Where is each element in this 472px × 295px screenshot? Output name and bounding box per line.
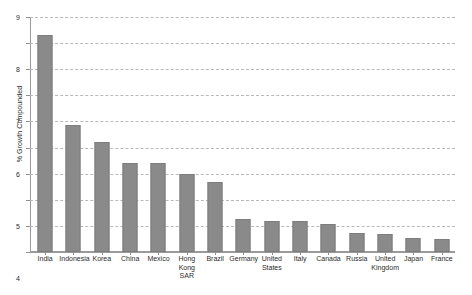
x-axis-tick-label: China: [116, 255, 144, 264]
y-axis-tick-label: 7: [16, 118, 20, 125]
bar-slot: [428, 17, 456, 252]
bar[interactable]: [406, 238, 421, 252]
bar-series: [31, 17, 455, 252]
bar[interactable]: [123, 163, 138, 252]
x-axis-tick-label: Hong Kong SAR: [173, 255, 201, 281]
bar-slot: [116, 17, 144, 252]
bar-slot: [31, 17, 59, 252]
y-axis-tick-label: 5: [16, 222, 20, 229]
bar-slot: [59, 17, 87, 252]
bar[interactable]: [151, 163, 166, 252]
bar[interactable]: [236, 219, 251, 252]
bar[interactable]: [208, 182, 223, 253]
y-axis-tick-label: 4: [16, 275, 20, 282]
bar-slot: [343, 17, 371, 252]
bar[interactable]: [94, 142, 109, 252]
bar-chart: % Growth Compounded 0123456789 IndiaIndo…: [0, 0, 472, 295]
y-axis-tick: 8: [26, 43, 30, 44]
y-axis-tick-label: 8: [16, 66, 20, 73]
y-axis-tick-label: 6: [16, 170, 20, 177]
y-axis-tick: 7: [26, 69, 30, 70]
x-axis-tick-label: Brazil: [201, 255, 229, 264]
bar-slot: [229, 17, 257, 252]
bar-slot: [399, 17, 427, 252]
x-axis-tick-label: Japan: [399, 255, 427, 264]
x-axis-tick-label: Korea: [88, 255, 116, 264]
x-axis-tick-label: Russia: [343, 255, 371, 264]
bar-slot: [173, 17, 201, 252]
y-axis-tick: 1: [26, 226, 30, 227]
bar[interactable]: [378, 234, 393, 252]
bar-slot: [144, 17, 172, 252]
bar[interactable]: [434, 239, 449, 252]
x-axis-tick-label: France: [428, 255, 456, 264]
bar[interactable]: [264, 221, 279, 252]
x-axis-tick-label: India: [31, 255, 59, 264]
x-axis-tick-label: Indonesia: [59, 255, 87, 264]
y-axis-tick: 0: [26, 252, 30, 253]
x-axis-tick-label: United States: [258, 255, 286, 272]
bar[interactable]: [66, 125, 81, 252]
bar[interactable]: [293, 221, 308, 252]
x-axis-tick-label: United Kingdom: [371, 255, 399, 272]
bar[interactable]: [179, 174, 194, 252]
x-axis-tick-label: Mexico: [144, 255, 172, 264]
y-axis-tick: 6: [26, 95, 30, 96]
bar[interactable]: [349, 233, 364, 252]
plot-area: 0123456789: [30, 17, 455, 252]
bar[interactable]: [38, 35, 53, 252]
y-axis-tick-label: 9: [16, 14, 20, 21]
bar[interactable]: [321, 224, 336, 252]
bar-slot: [371, 17, 399, 252]
y-axis-tick: 5: [26, 121, 30, 122]
x-axis-tick-label: Italy: [286, 255, 314, 264]
x-axis-tick-label: Canada: [314, 255, 342, 264]
y-axis-tick: 4: [26, 148, 30, 149]
bar-slot: [201, 17, 229, 252]
y-axis-tick: 9: [26, 17, 30, 18]
y-axis-tick: 3: [26, 174, 30, 175]
x-axis-tick-label: Germany: [229, 255, 257, 264]
bar-slot: [314, 17, 342, 252]
bar-slot: [88, 17, 116, 252]
bar-slot: [286, 17, 314, 252]
y-axis-title: % Growth Compounded: [14, 0, 26, 250]
y-axis-tick: 2: [26, 200, 30, 201]
bar-slot: [258, 17, 286, 252]
x-axis-labels: IndiaIndonesiaKoreaChinaMexicoHong Kong …: [31, 255, 456, 295]
